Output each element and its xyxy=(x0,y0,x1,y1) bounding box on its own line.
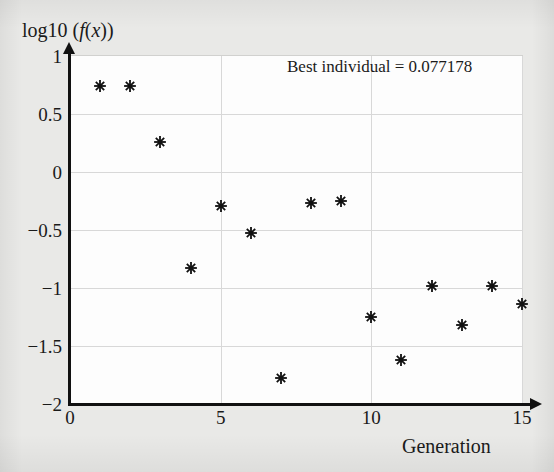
gridline-vertical xyxy=(522,56,523,404)
data-point-marker xyxy=(123,79,137,93)
data-point-marker xyxy=(425,279,439,293)
y-axis-label-close-paren: )) xyxy=(100,19,113,41)
gridline-horizontal xyxy=(70,230,522,231)
data-point-marker xyxy=(244,226,258,240)
data-point-marker xyxy=(515,297,529,311)
y-axis-line xyxy=(68,50,71,406)
y-tick-label: −1.5 xyxy=(28,337,62,356)
data-point-marker xyxy=(184,261,198,275)
plot-area xyxy=(70,56,522,404)
gridline-vertical xyxy=(371,56,372,404)
data-point-marker xyxy=(304,196,318,210)
x-axis-arrow-icon xyxy=(530,398,542,410)
data-point-marker xyxy=(364,310,378,324)
data-point-marker xyxy=(485,279,499,293)
data-point-marker xyxy=(214,199,228,213)
x-tick-label: 15 xyxy=(513,408,532,427)
x-tick-label: 5 xyxy=(216,408,226,427)
gridline-horizontal xyxy=(70,172,522,173)
data-point-marker xyxy=(274,371,288,385)
y-tick-label: −1 xyxy=(42,279,62,298)
x-tick-label: 0 xyxy=(65,408,75,427)
scatter-plot-figure: log10 (f(x)) 10.50−0.5−1−1.5−2 051015 Ge… xyxy=(0,0,554,472)
gridline-horizontal xyxy=(70,114,522,115)
data-point-marker xyxy=(93,79,107,93)
data-point-marker xyxy=(334,194,348,208)
best-individual-annotation: Best individual = 0.077178 xyxy=(287,58,472,75)
y-tick-label: 0.5 xyxy=(38,105,62,124)
y-tick-label: −0.5 xyxy=(28,221,62,240)
y-axis-label-x: x xyxy=(91,19,100,41)
gridline-horizontal xyxy=(70,288,522,289)
y-tick-label: 0 xyxy=(53,163,63,182)
x-tick-label: 10 xyxy=(362,408,381,427)
gridline-vertical xyxy=(221,56,222,404)
y-tick-label: 1 xyxy=(53,47,63,66)
data-point-marker xyxy=(153,135,167,149)
y-axis-arrow-icon xyxy=(63,42,75,54)
data-point-marker xyxy=(455,318,469,332)
y-tick-label-group: 10.50−0.5−1−1.5−2 xyxy=(0,0,62,472)
gridline-horizontal xyxy=(70,346,522,347)
x-axis-label: Generation xyxy=(402,436,491,456)
data-point-marker xyxy=(394,353,408,367)
x-axis-line xyxy=(68,403,532,406)
y-tick-label: −2 xyxy=(42,395,62,414)
